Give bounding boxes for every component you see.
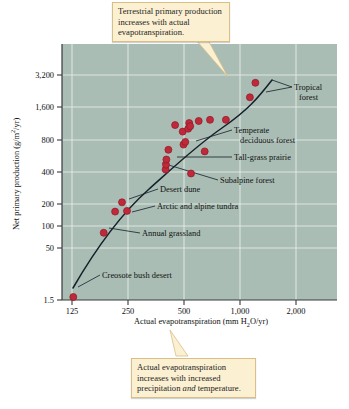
label-arctic-and-alpine-tundra: Arctic and alpine tundra (157, 202, 238, 211)
y-tick-label: 1.5 (44, 296, 54, 305)
figure-container: 3,200 1,600 800 400 200 100 50 1.5 125 2… (0, 0, 349, 409)
callout-bottom-pointer (170, 330, 188, 356)
data-point (187, 123, 194, 130)
label-subalpine-forest: Subalpine forest (220, 176, 275, 185)
data-point (195, 118, 202, 125)
label-tropical-forest-line2: forest (299, 93, 319, 102)
data-point (172, 122, 179, 129)
data-point (112, 208, 119, 215)
label-temperate-deciduous-forest-line1: Temperate (234, 126, 269, 135)
label-tropical-forest-line1: Tropical (294, 83, 323, 92)
data-point (222, 116, 229, 123)
y-tick-label: 200 (41, 200, 54, 209)
data-point (163, 156, 170, 163)
x-axis-title: Actual evapotranspiration (mm H2O/yr) (76, 317, 326, 328)
data-point (246, 94, 253, 101)
y-tick-label: 100 (41, 222, 54, 231)
y-tick-label: 3,200 (35, 71, 54, 80)
y-tick-label: 400 (41, 168, 54, 177)
x-tick-label: 2,000 (287, 307, 306, 316)
data-point (119, 199, 126, 206)
label-tall-grass-prairie: Tall-grass prairie (234, 153, 291, 162)
x-tick-label: 1,000 (231, 307, 250, 316)
data-point (182, 138, 189, 145)
data-point (188, 170, 195, 177)
data-point (201, 148, 208, 155)
x-tick-label: 125 (66, 307, 79, 316)
y-tick-marks (57, 75, 62, 300)
data-point (70, 294, 77, 301)
label-creosote-bush-desert: Creosote bush desert (102, 271, 172, 280)
y-tick-label: 50 (46, 244, 54, 253)
callout-bottom: Actual evapotranspiration increases with… (131, 358, 256, 398)
y-tick-labels: 3,200 1,600 800 400 200 100 50 1.5 (35, 71, 54, 305)
y-tick-label: 1,600 (35, 103, 54, 112)
data-point (100, 229, 107, 236)
y-tick-label: 800 (41, 136, 54, 145)
data-point (252, 79, 259, 86)
x-tick-marks (72, 300, 296, 305)
label-annual-grassland: Annual grassland (142, 229, 201, 238)
x-tick-label: 500 (178, 307, 191, 316)
x-tick-labels: 125 250 500 1,000 2,000 (66, 307, 306, 316)
chart-plot: 3,200 1,600 800 400 200 100 50 1.5 125 2… (0, 0, 349, 409)
x-tick-label: 250 (122, 307, 135, 316)
y-axis-title: Net primary production (g/m2/yr) (9, 64, 21, 284)
callout-top: Terrestrial primary production increases… (112, 2, 230, 42)
data-point (165, 146, 172, 153)
label-temperate-deciduous-forest-line2: deciduous forest (240, 136, 296, 145)
label-desert-dune: Desert dune (160, 185, 201, 194)
data-point (207, 116, 214, 123)
data-point (124, 207, 131, 214)
